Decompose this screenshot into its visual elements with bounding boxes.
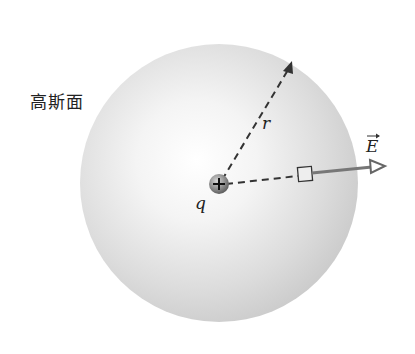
area-element xyxy=(297,166,312,181)
field-arrowhead-icon xyxy=(370,160,385,173)
charge-label: q xyxy=(195,193,206,213)
field-label: E xyxy=(366,136,378,156)
radius-label: r xyxy=(262,113,270,133)
gaussian-surface-diagram xyxy=(0,0,415,354)
gaussian-surface-label: 高斯面 xyxy=(30,88,84,113)
